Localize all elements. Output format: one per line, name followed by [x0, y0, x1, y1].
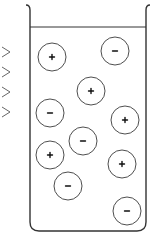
chevron-marker-icon — [2, 47, 10, 57]
chevron-marker-icon — [2, 67, 10, 77]
negative-ion — [113, 197, 141, 225]
negative-ion — [101, 37, 129, 65]
side-markers — [2, 47, 10, 117]
chevron-marker-icon — [2, 87, 10, 97]
negative-ion — [54, 172, 82, 200]
positive-ion — [77, 77, 105, 105]
positive-ion — [38, 43, 66, 71]
ions — [36, 37, 141, 225]
beaker-diagram — [0, 0, 159, 247]
positive-ion — [111, 106, 139, 134]
positive-ion — [36, 141, 64, 169]
chevron-marker-icon — [2, 107, 10, 117]
positive-ion — [108, 150, 136, 178]
negative-ion — [36, 99, 64, 127]
negative-ion — [69, 127, 97, 155]
